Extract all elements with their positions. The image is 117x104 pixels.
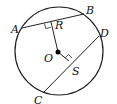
label-a: A: [10, 23, 19, 36]
center-point: [56, 50, 61, 55]
circle-diagram: A B R O D S C: [0, 0, 117, 104]
label-r: R: [54, 19, 63, 32]
right-angle-mark-s: [65, 55, 72, 59]
right-angle-mark-r: [45, 24, 51, 29]
label-c: C: [34, 94, 43, 104]
label-s: S: [72, 65, 80, 78]
label-b: B: [85, 4, 94, 17]
label-o: O: [44, 52, 53, 65]
label-d: D: [99, 27, 109, 40]
